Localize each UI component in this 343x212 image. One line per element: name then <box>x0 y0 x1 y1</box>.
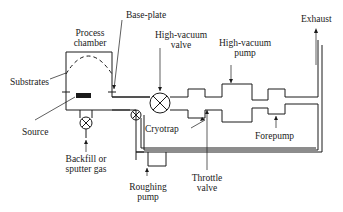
high-vacuum-pump-label-line2: pump <box>210 48 280 58</box>
source-block <box>76 93 91 98</box>
roughing-pump-label: Roughing pump <box>126 182 170 202</box>
process-chamber-label-line2: chamber <box>70 38 110 48</box>
roughing-pump-label-line1: Roughing <box>126 182 170 192</box>
roughing-pump-label-line2: pump <box>126 192 170 202</box>
substrate-dome <box>66 56 112 74</box>
base-plate-label: Base-plate <box>126 10 166 20</box>
backfill-label: Backfill or sputter gas <box>58 154 114 174</box>
process-chamber-outline <box>66 52 150 97</box>
throttle-valve-label-line2: valve <box>186 183 228 193</box>
high-vacuum-pump-label-line1: High-vacuum <box>210 38 280 48</box>
process-chamber-label-line1: Process <box>70 28 110 38</box>
throttle-valve-label-line1: Throttle <box>186 173 228 183</box>
process-chamber-label: Process chamber <box>70 28 110 48</box>
backfill-label-line2: sputter gas <box>58 164 114 174</box>
high-vacuum-valve-label-line2: valve <box>146 40 216 50</box>
high-vacuum-valve-label-line1: High-vacuum <box>146 30 216 40</box>
high-vacuum-valve-label: High-vacuum valve <box>146 30 216 50</box>
throttle-valve-label: Throttle valve <box>186 173 228 193</box>
forepump-label: Forepump <box>255 131 294 141</box>
high-vacuum-pump-label: High-vacuum pump <box>210 38 280 58</box>
cryotrap-label: Cryotrap <box>145 124 179 134</box>
substrates-label: Substrates <box>10 77 49 87</box>
vacuum-system-diagram: Process chamber Base-plate Substrates So… <box>0 0 343 212</box>
backfill-label-line1: Backfill or <box>58 154 114 164</box>
source-label: Source <box>22 127 48 137</box>
exhaust-label: Exhaust <box>301 14 332 24</box>
